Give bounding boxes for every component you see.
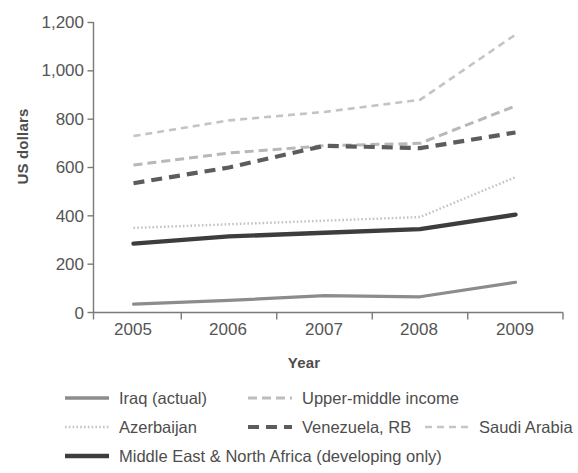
legend-item-upper-middle-income[interactable]: Upper-middle income: [247, 390, 459, 407]
series-line-upper-middle-income: [134, 106, 516, 165]
series-line-middle-east-north-africa-developing-only: [134, 215, 516, 244]
chart-legend: Iraq (actual) Upper-middle income Azerba…: [0, 384, 578, 473]
legend-label-iraq-actual: Iraq (actual): [119, 390, 207, 407]
legend-label-saudi-arabia: Saudi Arabia: [479, 419, 573, 436]
legend-swatch-saudi-arabia: [424, 420, 470, 434]
series-line-azerbaijan: [134, 177, 516, 228]
legend-swatch-upper-middle-income: [247, 391, 293, 405]
series-line-saudi-arabia: [134, 35, 516, 137]
legend-swatch-azerbaijan: [64, 420, 110, 434]
legend-label-venezuela-rb: Venezuela, RB: [302, 419, 411, 436]
legend-label-mena-developing-only: Middle East & North Africa (developing o…: [119, 448, 442, 465]
axis-lines: [94, 22, 564, 313]
y-axis-ticks: [88, 23, 94, 313]
chart-figure: US dollars 1,200 1,000 800 600 400 200 0…: [0, 0, 578, 473]
legend-label-azerbaijan: Azerbaijan: [119, 419, 197, 436]
legend-item-iraq-actual[interactable]: Iraq (actual): [64, 390, 207, 407]
legend-item-mena-developing-only[interactable]: Middle East & North Africa (developing o…: [64, 448, 442, 465]
series-line-iraq-actual: [134, 282, 516, 304]
data-series-group: [134, 35, 516, 304]
legend-item-venezuela-rb[interactable]: Venezuela, RB: [247, 419, 411, 436]
legend-item-saudi-arabia[interactable]: Saudi Arabia: [424, 419, 573, 436]
legend-swatch-mena-developing-only: [64, 449, 110, 463]
x-axis-ticks: [94, 313, 564, 320]
legend-swatch-iraq-actual: [64, 391, 110, 405]
legend-label-upper-middle-income: Upper-middle income: [302, 390, 459, 407]
legend-item-azerbaijan[interactable]: Azerbaijan: [64, 419, 197, 436]
legend-swatch-venezuela-rb: [247, 420, 293, 434]
plot-area: [0, 0, 578, 360]
